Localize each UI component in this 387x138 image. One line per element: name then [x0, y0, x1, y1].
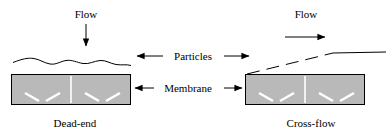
membrane-label: Membrane	[164, 82, 212, 94]
diagram-canvas: Flow Dead-end Flow Cross-flow Particles …	[0, 0, 387, 138]
flow-label-left: Flow	[75, 8, 98, 20]
caption-dead-end: Dead-end	[54, 117, 97, 129]
particle-layer-cross-flow-ramp	[247, 53, 333, 74]
caption-cross-flow: Cross-flow	[287, 117, 336, 129]
particles-label: Particles	[174, 50, 212, 62]
particle-layer-cross-flow-flat	[333, 52, 386, 53]
particle-layer-dead-end	[13, 58, 131, 65]
filtration-diagram: Flow Dead-end Flow Cross-flow Particles …	[0, 0, 387, 138]
flow-label-right: Flow	[295, 8, 318, 20]
